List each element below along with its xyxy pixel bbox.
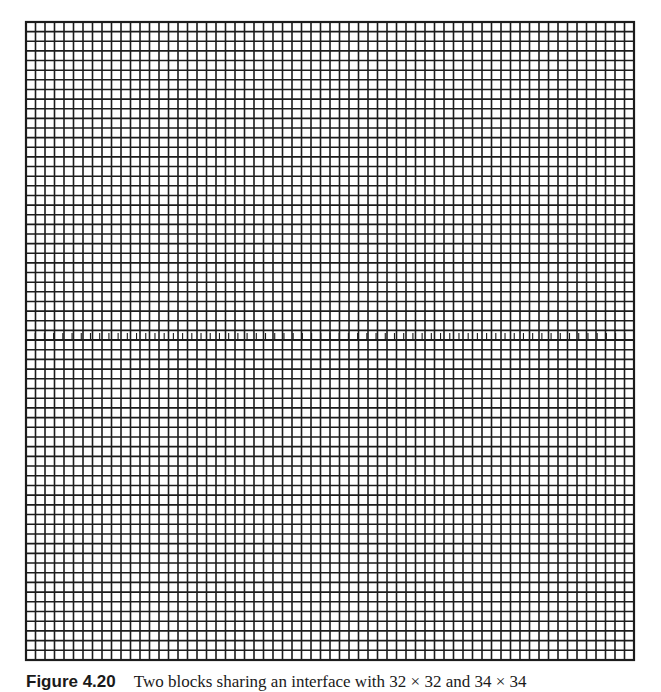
figure-caption: Figure 4.20 Two blocks sharing an interf… xyxy=(26,672,527,692)
figure-caption-text: Two blocks sharing an interface with 32 … xyxy=(134,672,527,691)
figure-label: Figure 4.20 xyxy=(26,672,116,691)
lower-block-grid xyxy=(26,340,634,660)
block-interface-band xyxy=(26,333,634,340)
upper-block-grid xyxy=(26,22,634,340)
